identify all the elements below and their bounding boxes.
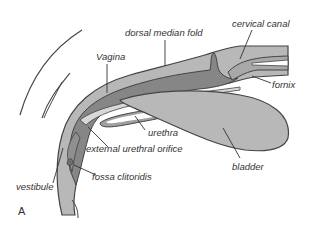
label-vagina: Vagina [96, 51, 125, 62]
label-fossa-clitoridis: fossa clitoridis [92, 171, 152, 182]
label-urethra: urethra [148, 127, 178, 138]
labial-fold-contour [44, 82, 62, 118]
label-fornix: fornix [272, 79, 296, 90]
inner-body-contour [42, 73, 70, 118]
label-vestibule: vestibule [16, 181, 54, 192]
fossa-clitoridis-shape [67, 159, 73, 166]
panel-letter: A [18, 205, 26, 217]
label-bladder: bladder [232, 161, 265, 172]
label-cervical-canal: cervical canal [232, 18, 290, 29]
label-dorsal-median-fold: dorsal median fold [125, 27, 203, 38]
label-external-urethral-orifice: external urethral orifice [86, 143, 183, 154]
anatomy-diagram: dorsal median fold cervical canal Vagina… [0, 0, 318, 230]
